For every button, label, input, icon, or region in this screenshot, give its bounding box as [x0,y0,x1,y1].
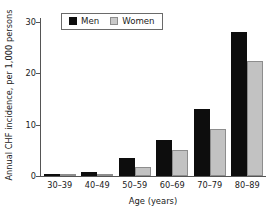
y-axis-title: Annual CHF incidence, per 1,000 persons [0,0,18,190]
x-axis-tick-label: 40–49 [79,180,117,190]
bar-women-30-39 [60,174,76,176]
y-axis-tick-mark [36,73,40,74]
y-axis-title-text: Annual CHF incidence, per 1,000 persons [4,9,14,180]
x-axis-tick-label: 30–39 [41,180,79,190]
y-axis-tick-labels: 0102030 [19,0,36,222]
legend-swatch-women-icon [110,17,118,25]
plot-area [40,22,266,176]
y-axis-tick-label: 30 [20,18,36,26]
y-axis-tick-label: 20 [20,69,36,77]
bar-group [229,22,267,176]
y-axis-tick-mark [36,22,40,23]
y-axis-tick-label: 10 [20,121,36,129]
bar-men-30-39 [44,174,60,176]
x-axis-line [40,176,266,177]
bar-women-60-69 [172,150,188,176]
legend-label-women: Women [122,16,154,26]
y-axis-tick-mark [36,125,40,126]
bar-men-80-89 [231,32,247,176]
bar-women-80-89 [247,61,263,177]
bar-women-40-49 [97,174,113,176]
x-axis-title: Age (years) [40,196,266,206]
legend-item-men: Men [69,16,99,26]
y-axis-tick-label: 0 [20,172,36,180]
bar-group [116,22,154,176]
legend-swatch-men-icon [69,17,77,25]
bar-group [191,22,229,176]
x-axis-tick-labels: 30–3940–4950–5960–6970–7980–89 [41,180,266,190]
bar-men-70-79 [194,109,210,176]
bar-group [79,22,117,176]
y-axis-tick-mark [36,176,40,177]
chart-figure: Annual CHF incidence, per 1,000 persons … [0,0,273,222]
bar-group [154,22,192,176]
bar-men-50-59 [119,158,135,176]
bar-group [41,22,79,176]
x-axis-tick-label: 60–69 [154,180,192,190]
legend-item-women: Women [110,16,154,26]
x-axis-tick-label: 50–59 [116,180,154,190]
bar-women-70-79 [210,129,226,176]
bar-women-50-59 [135,167,151,176]
legend-label-men: Men [81,16,99,26]
chart-legend: Men Women [61,13,163,30]
bar-men-60-69 [156,140,172,176]
x-axis-tick-label: 70–79 [191,180,229,190]
x-axis-tick-label: 80–89 [229,180,267,190]
bar-groups [41,22,266,176]
bar-men-40-49 [81,172,97,176]
